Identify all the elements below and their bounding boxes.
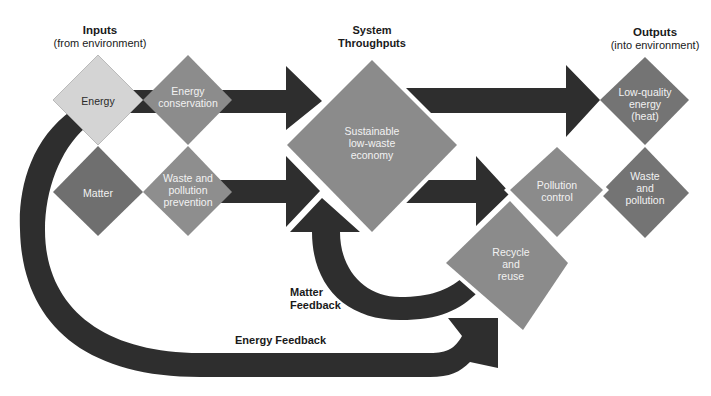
node-recycle-label: Recycle and reuse: [492, 246, 529, 282]
node-low-quality-energy-label: Low-quality energy (heat): [618, 86, 671, 122]
outputs-subtitle: (into environment): [611, 39, 700, 51]
outputs-title: Outputs: [600, 26, 710, 39]
inputs-header: Inputs (from environment): [40, 24, 160, 50]
throughputs-line1: System: [322, 24, 422, 37]
inputs-subtitle: (from environment): [54, 37, 147, 49]
matter-feedback-label: Matter Feedback: [290, 286, 341, 312]
energy-feedback-label: Energy Feedback: [235, 334, 326, 347]
throughputs-line2: Throughputs: [322, 37, 422, 50]
node-waste-prevention-label: Waste and pollution prevention: [163, 172, 213, 208]
node-energy-label: Energy: [81, 95, 114, 107]
node-waste-pollution-label: Waste and pollution: [625, 170, 664, 206]
throughputs-header: System Throughputs: [322, 24, 422, 50]
outputs-header: Outputs (into environment): [600, 26, 710, 52]
node-economy-label: Sustainable low-waste economy: [345, 125, 400, 161]
node-energy-conservation-label: Energy conservation: [158, 85, 218, 109]
node-pollution-control-label: Pollution control: [537, 179, 577, 203]
node-matter-label: Matter: [83, 187, 113, 199]
inputs-title: Inputs: [40, 24, 160, 37]
